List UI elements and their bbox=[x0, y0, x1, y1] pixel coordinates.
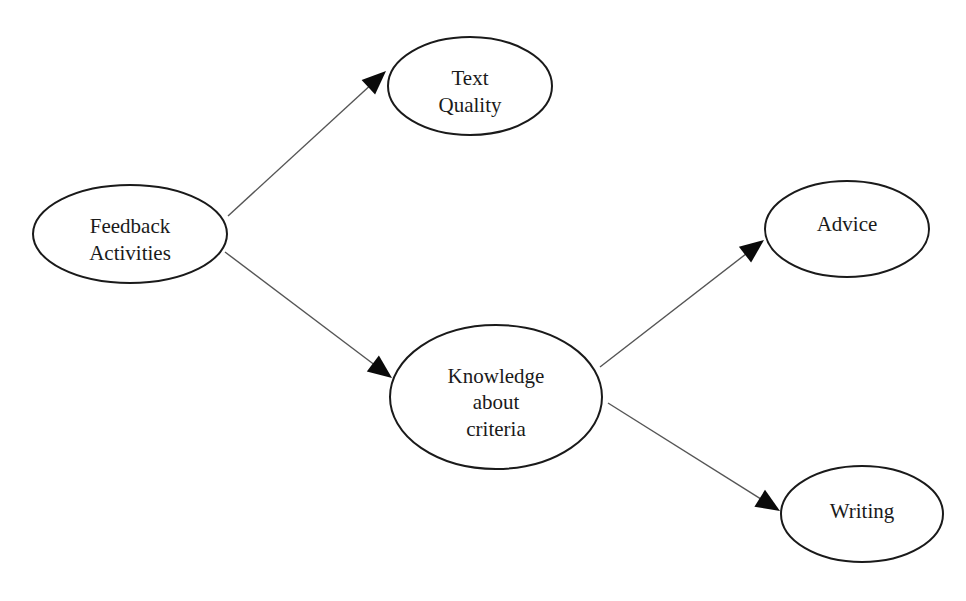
node-label-line: about bbox=[473, 390, 520, 414]
edge-line bbox=[228, 85, 371, 216]
node-label-line: Text bbox=[451, 66, 488, 90]
node-feedback-activities: FeedbackActivities bbox=[33, 185, 227, 283]
edge-line bbox=[225, 252, 376, 366]
node-advice: Advice bbox=[765, 181, 929, 277]
node-label-line: Knowledge bbox=[448, 364, 545, 388]
arrowhead-icon bbox=[362, 71, 386, 95]
node-text-quality: TextQuality bbox=[388, 37, 552, 135]
node-label-line: Quality bbox=[439, 93, 502, 117]
edge-feedback-activities-to-knowledge-about-criteria bbox=[225, 252, 392, 378]
node-label-line: criteria bbox=[466, 417, 526, 441]
node-label-line: Feedback bbox=[90, 214, 171, 238]
arrowhead-icon bbox=[739, 240, 764, 263]
arrowhead-icon bbox=[367, 356, 392, 378]
node-label-line: Advice bbox=[817, 212, 878, 236]
nodes-layer: FeedbackActivitiesTextQualityKnowledgeab… bbox=[33, 37, 943, 562]
node-label-line: Writing bbox=[830, 499, 895, 523]
node-knowledge-about-criteria: Knowledgeaboutcriteria bbox=[390, 325, 602, 469]
path-diagram: FeedbackActivitiesTextQualityKnowledgeab… bbox=[0, 0, 966, 601]
edge-line bbox=[600, 252, 748, 367]
edge-knowledge-about-criteria-to-advice bbox=[600, 240, 764, 367]
edge-knowledge-about-criteria-to-writing bbox=[608, 403, 780, 511]
arrowhead-icon bbox=[754, 490, 780, 511]
node-writing: Writing bbox=[781, 466, 943, 562]
edge-feedback-activities-to-text-quality bbox=[228, 71, 386, 216]
node-label-line: Activities bbox=[89, 241, 171, 265]
edge-line bbox=[608, 403, 763, 500]
